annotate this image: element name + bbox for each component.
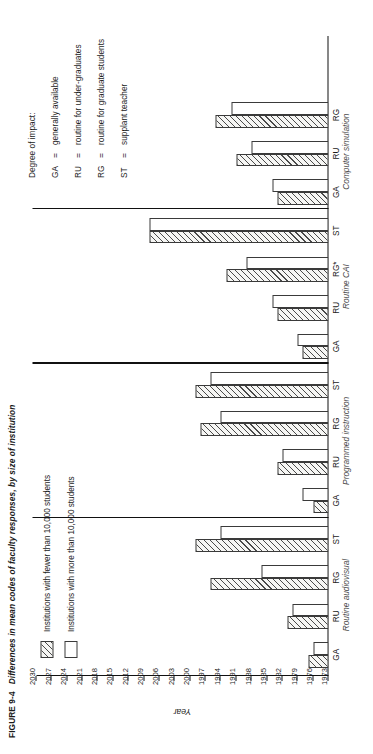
bar-large-institutions: [272, 295, 328, 308]
bar-large-institutions: [297, 334, 328, 347]
bar-large-institutions: [302, 488, 328, 501]
category-label: ST: [331, 372, 340, 397]
group-separator: [32, 517, 328, 518]
bar-large-institutions: [231, 102, 328, 115]
category-group: RG: [36, 565, 328, 590]
bar-small-institutions: [210, 578, 328, 591]
bar-large-institutions: [246, 257, 328, 270]
bar-small-institutions: [236, 154, 328, 167]
category-label: RG: [331, 411, 340, 436]
category-label: RU: [331, 604, 340, 629]
bar-small-institutions: [215, 115, 328, 128]
category-group: RU: [36, 604, 328, 629]
category-group: ST: [36, 526, 328, 551]
bar-large-institutions: [292, 604, 328, 617]
category-group: ST: [36, 218, 328, 243]
category-label: GA: [331, 642, 340, 667]
category-label: RU: [331, 449, 340, 474]
figure-page: FIGURE 9-4Differences in mean codes of f…: [0, 0, 373, 754]
category-label: GA: [331, 488, 340, 513]
group-separator: [32, 362, 328, 363]
bar-small-institutions: [277, 308, 328, 321]
category-label: GA: [331, 334, 340, 359]
bar-large-institutions: [220, 411, 328, 424]
bar-group: Programmed instructionGARURGST: [36, 364, 328, 518]
category-group: RU: [36, 141, 328, 166]
impact-key-heading: Degree of impact:: [26, 18, 36, 178]
bar-group: Computer simulationGARURG: [36, 94, 328, 210]
bar-large-institutions: [251, 141, 328, 154]
bar-small-institutions: [287, 616, 328, 629]
bar-small-institutions: [277, 462, 328, 475]
figure-canvas: FIGURE 9-4Differences in mean codes of f…: [0, 0, 373, 754]
bar-small-institutions: [149, 231, 328, 244]
bar-group: Routine audiovisualGARURGST: [36, 518, 328, 672]
category-group: GA: [36, 179, 328, 204]
bar-small-institutions: [200, 423, 328, 436]
bar-large-institutions: [282, 449, 328, 462]
category-group: RG: [36, 411, 328, 436]
plot-area: Year 19731976197919821985198819911994199…: [36, 36, 328, 676]
category-group: ST: [36, 372, 328, 397]
bar-small-institutions: [195, 539, 328, 552]
category-label: RU: [331, 295, 340, 320]
category-group: RU: [36, 449, 328, 474]
category-label: GA: [331, 179, 340, 204]
bar-large-institutions: [313, 642, 328, 655]
category-label: RG: [331, 102, 340, 127]
category-label: ST: [331, 218, 340, 243]
bar-small-institutions: [313, 501, 328, 514]
category-group: GA: [36, 642, 328, 667]
category-label: ST: [331, 526, 340, 551]
category-group: GA: [36, 334, 328, 359]
category-label: RG*: [331, 257, 340, 282]
bar-small-institutions: [226, 269, 328, 282]
bar-small-institutions: [277, 192, 328, 205]
bar-small-institutions: [302, 346, 328, 359]
figure-caption: FIGURE 9-4Differences in mean codes of f…: [6, 405, 16, 738]
category-group: RG: [36, 102, 328, 127]
group-separator: [32, 208, 328, 209]
figure-caption-text: Differences in mean codes of faculty res…: [6, 405, 16, 685]
category-label: RU: [331, 141, 340, 166]
bar-large-institutions: [261, 565, 328, 578]
year-tick-label: 2030: [29, 668, 37, 685]
bar-small-institutions: [308, 655, 328, 668]
category-group: RG*: [36, 257, 328, 282]
bar-large-institutions: [210, 372, 328, 385]
bar-small-institutions: [195, 385, 328, 398]
group-title: Programmed instruction: [340, 364, 350, 518]
year-axis-label: Year: [173, 707, 191, 717]
figure-number: FIGURE 9-4: [6, 691, 16, 738]
bar-large-institutions: [149, 218, 328, 231]
group-title: Routine CAI: [340, 210, 350, 364]
category-group: GA: [36, 488, 328, 513]
bar-large-institutions: [272, 179, 328, 192]
bar-large-institutions: [220, 526, 328, 539]
bar-group: Routine CAIGARURG*ST: [36, 210, 328, 364]
group-title: Computer simulation: [340, 94, 350, 210]
group-title: Routine audiovisual: [340, 518, 350, 672]
category-group: RU: [36, 295, 328, 320]
category-label: RG: [331, 565, 340, 590]
